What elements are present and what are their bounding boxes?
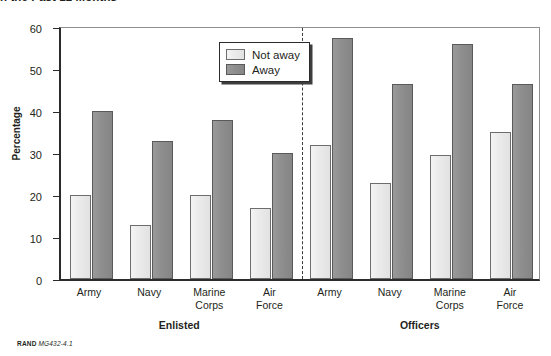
bar-navy-away	[152, 141, 173, 279]
legend-swatch-not-away-icon	[226, 49, 245, 60]
legend-item-away: Away	[226, 62, 300, 77]
x-axis-label-officers-air-force: AirForce	[470, 286, 550, 311]
bar-marine-corps-not-away	[430, 155, 451, 279]
y-axis-tick: 40	[53, 112, 61, 113]
x-axis-group-label-enlisted: Enlisted	[119, 319, 239, 331]
x-axis-label-line: Air	[470, 286, 550, 299]
y-axis-tick-label: 0	[36, 275, 42, 287]
y-axis-tick: 20	[53, 196, 61, 197]
bar-army-not-away	[310, 145, 331, 279]
chart-legend: Not away Away	[219, 42, 310, 82]
bar-navy-away	[392, 84, 413, 279]
bar-army-not-away	[70, 195, 91, 279]
footer-rand-label: RAND	[17, 340, 37, 347]
figure-source-note: RAND MG432-4.1	[17, 340, 73, 347]
y-axis-title: Percentage	[11, 74, 22, 194]
bar-navy-not-away	[130, 225, 151, 279]
bar-army-away	[332, 38, 353, 279]
bar-marine-corps-not-away	[190, 195, 211, 279]
legend-item-not-away: Not away	[226, 47, 300, 62]
bar-navy-not-away	[370, 183, 391, 279]
y-axis-tick-label: 10	[30, 233, 42, 245]
legend-label-away: Away	[252, 64, 280, 76]
y-axis-tick-label: 20	[30, 191, 42, 203]
legend-label-not-away: Not away	[252, 49, 300, 61]
y-axis-tick-label: 40	[30, 107, 42, 119]
y-axis-tick: 30	[53, 154, 61, 155]
y-axis-tick: 60	[53, 28, 61, 29]
figure-title: n the Past 12 Months	[0, 0, 117, 3]
y-axis-tick: 10	[53, 238, 61, 239]
y-axis-tick: 50	[53, 70, 61, 71]
bar-marine-corps-away	[452, 44, 473, 279]
x-axis-label-line: Force	[229, 299, 309, 312]
footer-figure-id: MG432-4.1	[38, 340, 72, 347]
y-axis-tick-label: 50	[30, 65, 42, 77]
legend-swatch-away-icon	[226, 64, 245, 75]
bar-air-force-not-away	[490, 132, 511, 279]
x-axis-label-line: Force	[470, 299, 550, 312]
y-axis-tick: 0	[53, 280, 61, 281]
x-axis-group-label-officers: Officers	[360, 319, 480, 331]
bar-air-force-not-away	[250, 208, 271, 279]
bar-air-force-away	[272, 153, 293, 279]
y-axis-tick-label: 60	[30, 23, 42, 35]
bar-air-force-away	[512, 84, 533, 279]
y-axis-tick-label: 30	[30, 149, 42, 161]
bar-marine-corps-away	[212, 120, 233, 279]
bar-army-away	[92, 111, 113, 279]
